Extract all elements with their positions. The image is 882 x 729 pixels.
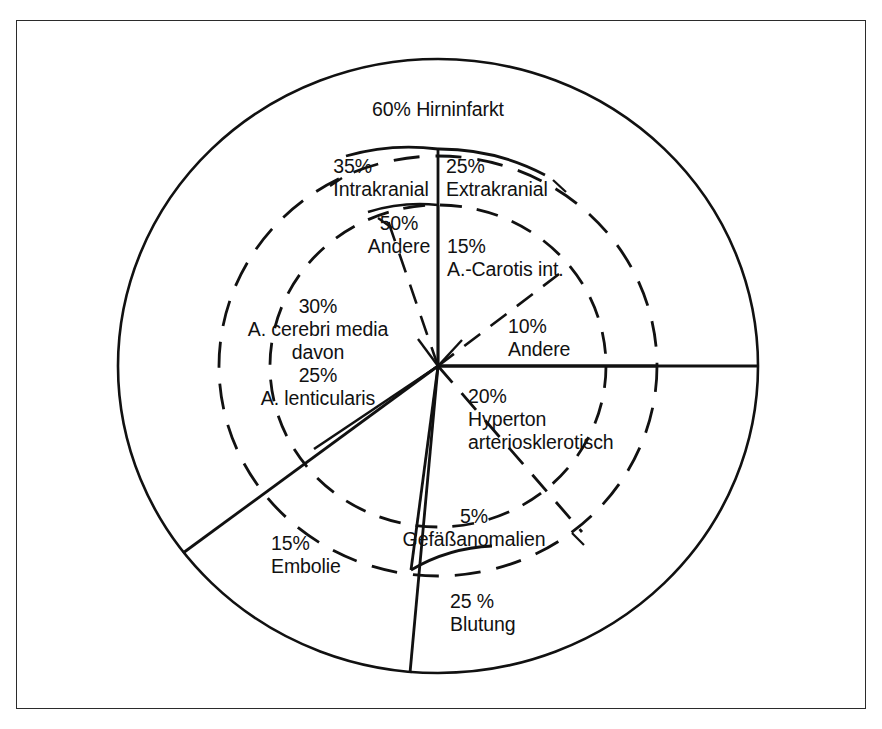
leader-gefaess <box>572 533 584 545</box>
label-cerebri-media: 30% A. cerebri media davon 25% A. lentic… <box>248 295 388 410</box>
label-andere-extrakranial: 10% Andere <box>508 315 570 361</box>
label-hyperton-arteriosklerotisch: 20% Hyperton arteriosklerotisch <box>468 385 614 454</box>
center-tick-3 <box>438 340 462 366</box>
label-andere-intrakranial: 50% Andere <box>368 212 430 258</box>
label-gefaessanomalien: 5% Gefäßanomalien <box>403 505 546 551</box>
label-carotis-interna: 15% A.-Carotis int. <box>447 235 564 281</box>
label-embolie: 15% Embolie <box>271 532 341 578</box>
center-tick-2 <box>398 366 438 394</box>
ring3-arc-cap-andere50 <box>368 204 438 212</box>
label-intrakranial: 35% Intrakranial <box>333 155 428 201</box>
label-blutung: 25 % Blutung <box>450 590 515 636</box>
figure-page: 60% Hirninfarkt 35% Intrakranial 25% Ext… <box>0 0 882 729</box>
label-extrakranial: 25% Extrakranial <box>446 155 548 201</box>
center-tick-1 <box>418 339 438 366</box>
label-hirninfarkt: 60% Hirninfarkt <box>372 98 504 121</box>
